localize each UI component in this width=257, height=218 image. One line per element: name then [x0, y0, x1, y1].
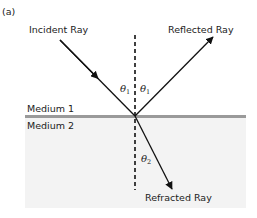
reflected-ray-label: Reflected Ray [168, 24, 234, 35]
incident-ray-label: Incident Ray [29, 24, 89, 35]
reflected-ray [135, 37, 213, 116]
medium-1-label: Medium 1 [27, 103, 74, 114]
reflected-angle-label: θ1 [140, 83, 150, 96]
refracted-ray-label: Refracted Ray [145, 192, 212, 203]
incident-angle-label: θ1 [120, 83, 130, 96]
medium-2-label: Medium 2 [27, 120, 74, 131]
refraction-diagram: (a) Incident Ray Reflected Ray Refracted… [0, 0, 257, 218]
panel-label: (a) [2, 6, 15, 17]
